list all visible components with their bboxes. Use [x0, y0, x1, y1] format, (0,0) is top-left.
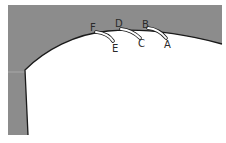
label-C: C	[138, 38, 145, 49]
label-A: A	[164, 39, 171, 50]
label-F: F	[90, 22, 96, 33]
label-D: D	[115, 18, 123, 29]
diagram-canvas: A B C D E F	[0, 0, 226, 143]
label-E: E	[112, 43, 118, 54]
label-B: B	[142, 19, 149, 30]
